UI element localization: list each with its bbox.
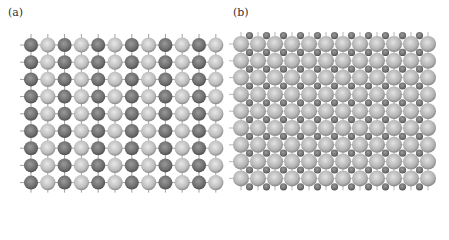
light-atom: [74, 37, 89, 52]
dark-atom: [192, 72, 206, 86]
light-atom: [107, 141, 122, 156]
dark-atom: [125, 124, 139, 138]
small-atom: [280, 116, 287, 123]
small-atom: [382, 82, 389, 89]
small-atom: [331, 99, 338, 106]
small-atom: [365, 66, 372, 73]
dark-atom: [125, 38, 139, 52]
small-atom: [382, 32, 389, 39]
dark-atom: [91, 55, 105, 69]
large-atom: [420, 154, 436, 170]
small-atom: [280, 99, 287, 106]
small-atom: [382, 133, 389, 140]
small-atom: [399, 99, 406, 106]
large-atom: [318, 36, 334, 52]
small-atom: [416, 116, 423, 123]
dark-atom: [24, 72, 38, 86]
large-atom: [267, 70, 283, 86]
light-atom: [40, 141, 55, 156]
large-atom: [301, 137, 317, 153]
large-atom: [301, 103, 317, 119]
large-atom: [267, 170, 283, 186]
large-atom: [352, 86, 368, 102]
dark-atom: [158, 72, 172, 86]
small-atom: [348, 183, 355, 190]
dark-atom: [58, 107, 72, 121]
small-atom: [382, 166, 389, 173]
small-atom: [280, 150, 287, 157]
small-atom: [297, 99, 304, 106]
small-atom: [331, 116, 338, 123]
small-atom: [314, 49, 321, 56]
large-atom: [403, 154, 419, 170]
large-atom: [335, 154, 351, 170]
small-atom: [280, 166, 287, 173]
large-atom: [284, 36, 300, 52]
large-atom: [301, 120, 317, 136]
large-atom: [369, 170, 385, 186]
light-atom: [40, 123, 55, 138]
dark-atom: [24, 90, 38, 104]
large-atom: [420, 103, 436, 119]
small-atom: [314, 133, 321, 140]
small-atom: [399, 32, 406, 39]
large-atom: [420, 137, 436, 153]
small-atom: [365, 133, 372, 140]
large-atom: [352, 70, 368, 86]
large-atom: [301, 170, 317, 186]
light-atom: [40, 106, 55, 121]
large-atom: [352, 137, 368, 153]
light-atom: [208, 141, 223, 156]
light-atom: [107, 55, 122, 70]
small-atom: [297, 82, 304, 89]
large-atom: [420, 70, 436, 86]
small-atom: [280, 66, 287, 73]
light-atom: [141, 141, 156, 156]
dark-atom: [125, 55, 139, 69]
small-atom: [246, 66, 253, 73]
light-atom: [40, 55, 55, 70]
large-atom: [267, 103, 283, 119]
light-atom: [40, 37, 55, 52]
large-atom: [369, 86, 385, 102]
small-atom: [365, 166, 372, 173]
small-atom: [314, 183, 321, 190]
small-atom: [246, 150, 253, 157]
small-atom: [416, 133, 423, 140]
large-atom: [301, 70, 317, 86]
small-atom: [382, 183, 389, 190]
small-atom: [297, 32, 304, 39]
large-atom: [233, 120, 249, 136]
dark-atom: [91, 38, 105, 52]
small-atom: [297, 66, 304, 73]
large-atom: [233, 53, 249, 69]
dark-atom: [192, 124, 206, 138]
dark-atom: [24, 107, 38, 121]
small-atom: [263, 99, 270, 106]
small-atom: [297, 150, 304, 157]
dark-atom: [58, 90, 72, 104]
dark-atom: [91, 176, 105, 190]
small-atom: [416, 99, 423, 106]
large-atom: [403, 103, 419, 119]
light-atom: [107, 72, 122, 87]
large-atom: [335, 36, 351, 52]
small-atom: [280, 82, 287, 89]
large-atom: [233, 36, 249, 52]
small-atom: [399, 66, 406, 73]
small-atom: [297, 116, 304, 123]
small-atom: [246, 82, 253, 89]
large-atom: [403, 86, 419, 102]
dark-atom: [91, 141, 105, 155]
large-atom: [403, 120, 419, 136]
light-atom: [208, 72, 223, 87]
dark-atom: [158, 158, 172, 172]
dark-atom: [125, 176, 139, 190]
light-atom: [74, 141, 89, 156]
light-atom: [74, 106, 89, 121]
large-atom: [386, 53, 402, 69]
large-atom: [250, 170, 266, 186]
light-atom: [208, 175, 223, 190]
dark-atom: [91, 90, 105, 104]
light-atom: [74, 158, 89, 173]
